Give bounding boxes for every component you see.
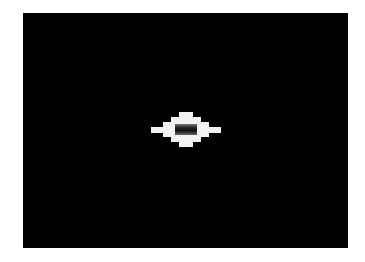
sprite-row xyxy=(179,142,193,147)
sprite-core xyxy=(175,124,197,135)
diamond-sprite xyxy=(151,112,221,147)
game-screen[interactable] xyxy=(23,13,348,248)
